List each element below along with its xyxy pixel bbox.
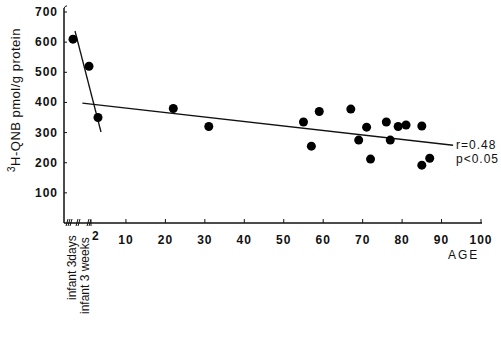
data-point: [362, 123, 371, 132]
x-tick-label: 90: [434, 233, 449, 247]
scatter-chart: 100200300400500600700 102030405060708090…: [0, 0, 501, 338]
p-value-annotation: p<0.05: [456, 152, 499, 166]
x-tick-label: 60: [316, 233, 331, 247]
x-axis-title: AGE: [448, 248, 479, 262]
y-ticks: 100200300400500600700: [35, 5, 67, 200]
x-tick-label: 50: [276, 233, 291, 247]
axes: [64, 6, 482, 223]
y-tick-label: 400: [35, 95, 58, 109]
data-point: [315, 107, 324, 116]
y-tick-label: 300: [35, 126, 58, 140]
x-tick-label: 70: [355, 233, 370, 247]
y-tick-label: 500: [35, 65, 58, 79]
data-points: [69, 35, 435, 170]
x-tick-label: 80: [394, 233, 409, 247]
data-point: [346, 105, 355, 114]
data-point: [354, 136, 363, 145]
infant-3days-label: infant 3days: [65, 235, 79, 300]
y-axis-title: 3H-QNB pmol/g protein: [6, 28, 23, 172]
y-tick-label: 700: [35, 5, 58, 19]
x-tick-label: 10: [118, 233, 133, 247]
data-point: [299, 118, 308, 127]
y-tick-label: 100: [35, 186, 58, 200]
y-tick-label: 200: [35, 156, 58, 170]
infant-3weeks-label: infant 3 weeks: [78, 237, 92, 314]
svg-text:3H-QNB pmol/g protein: 3H-QNB pmol/g protein: [6, 28, 23, 172]
x-tick-label: 30: [197, 233, 212, 247]
data-point: [402, 121, 411, 130]
data-point: [204, 122, 213, 131]
y-axis-cap: [64, 6, 67, 8]
x-tick-label: 100: [469, 233, 492, 247]
infant-data-point: [85, 62, 94, 71]
x-tick-label: 40: [237, 233, 252, 247]
x-tick-label-2: 2: [92, 229, 100, 243]
infant-data-point: [94, 113, 103, 122]
data-point: [169, 104, 178, 113]
data-point: [386, 136, 395, 145]
r-value-annotation: r=0.48: [456, 138, 496, 152]
x-tick-label: 20: [158, 233, 173, 247]
data-point: [417, 121, 426, 130]
data-point: [425, 154, 434, 163]
data-point: [417, 161, 426, 170]
y-tick-label: 600: [35, 35, 58, 49]
infant-data-point: [69, 35, 78, 44]
data-point: [394, 122, 403, 131]
data-point: [307, 142, 316, 151]
data-point: [366, 155, 375, 164]
data-point: [382, 118, 391, 127]
ylabel-main: H-QNB pmol/g protein: [8, 28, 23, 166]
